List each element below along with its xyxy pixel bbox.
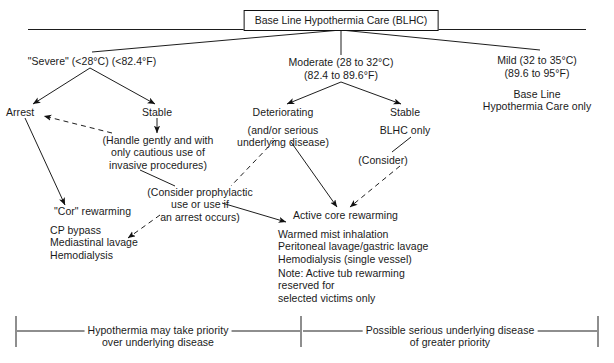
- branch-label-moderate-line1[interactable]: Moderate (28 to 32°C): [288, 56, 393, 68]
- arrow-severe-to-arrest: [33, 68, 90, 104]
- line-handle-to-prophylactic: [140, 170, 175, 186]
- node-moderate-deteriorating[interactable]: Deteriorating: [253, 106, 314, 118]
- branch-label-moderate-line2[interactable]: (82.4 to 89.6°F): [304, 69, 378, 81]
- note-active-tub-rewarming: Note: Active tub rewarming reserved for …: [278, 267, 405, 304]
- node-cor-rewarming-title[interactable]: "Cor" rewarming: [54, 205, 131, 217]
- list-active-core-rewarming-items: Warmed mist inhalation Peritoneal lavage…: [278, 228, 428, 265]
- arrow-arrest-to-cor-rewarming: [25, 118, 65, 205]
- arrow-moderate-to-stable: [341, 82, 401, 104]
- node-moderate-stable[interactable]: Stable: [390, 106, 420, 118]
- hypothermia-care-flowchart: Base Line Hypothermia Care (BLHC) "Sever…: [0, 0, 614, 363]
- footer-label-hypothermia-priority: Hypothermia may take priority over under…: [85, 324, 232, 349]
- note-mild-blhc-only: Base Line Hypothermia Care only: [483, 88, 591, 113]
- root-node-blhc[interactable]: Base Line Hypothermia Care (BLHC): [244, 10, 439, 31]
- footer-label-underlying-disease-priority: Possible serious underlying disease of g…: [363, 324, 538, 349]
- arrow-consider-to-active-core: [350, 166, 400, 207]
- node-severe-arrest[interactable]: Arrest: [6, 106, 34, 118]
- branch-label-mild-line2[interactable]: (89.6 to 95°F): [504, 67, 569, 79]
- branch-label-mild-line1[interactable]: Mild (32 to 35°C): [497, 54, 577, 66]
- note-consider: (Consider): [358, 154, 408, 166]
- arrow-deteriorating-to-active-core: [291, 142, 337, 207]
- node-active-core-rewarming-title[interactable]: Active core rewarming: [293, 209, 398, 221]
- arrow-moderate-to-deteriorating: [287, 82, 341, 104]
- branch-line-severe: [92, 30, 341, 52]
- note-deteriorating-serious-disease: (and/or serious underlying disease): [237, 124, 329, 149]
- node-moderate-stable-blhc-only: BLHC only: [380, 124, 431, 136]
- branch-label-severe[interactable]: "Severe" (<28°C) (<82.4°F): [28, 55, 157, 67]
- note-consider-prophylactic: (Consider prophylactic use or use if an …: [147, 186, 253, 223]
- list-cor-rewarming-items: CP bypass Mediastinal lavage Hemodialysi…: [50, 224, 138, 261]
- line-stable-to-consider: [392, 137, 411, 152]
- node-severe-stable[interactable]: Stable: [142, 106, 172, 118]
- arrow-severe-to-stable: [90, 68, 155, 104]
- note-handle-gently: (Handle gently and with only cautious us…: [103, 134, 214, 171]
- branch-line-mild: [341, 30, 540, 50]
- arrow-handle-note-to-arrest: [44, 116, 112, 133]
